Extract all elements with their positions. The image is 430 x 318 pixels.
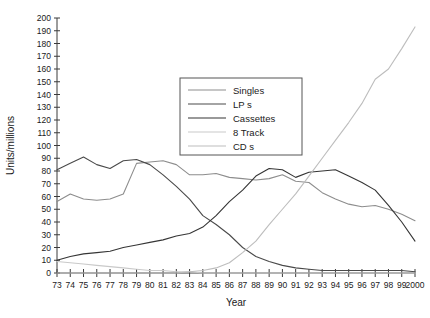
y-tick-label: 70 bbox=[42, 179, 52, 189]
legend-label-8-track: 8 Track bbox=[233, 127, 264, 138]
y-tick-label: 50 bbox=[42, 204, 52, 214]
x-tick-label: 73 bbox=[52, 280, 62, 290]
y-tick-label: 150 bbox=[37, 77, 51, 87]
y-tick-label: 180 bbox=[37, 39, 51, 49]
series-line-singles bbox=[57, 161, 415, 221]
legend-label-cassettes: Cassettes bbox=[233, 113, 275, 124]
y-tick-label: 30 bbox=[42, 230, 52, 240]
x-tick-label: 74 bbox=[66, 280, 76, 290]
x-tick-label: 80 bbox=[145, 280, 155, 290]
y-axis-title: Units/millions bbox=[5, 116, 16, 175]
x-tick-label: 92 bbox=[304, 280, 314, 290]
x-tick-label: 93 bbox=[317, 280, 327, 290]
x-tick-label: 82 bbox=[172, 280, 182, 290]
chart-canvas: 0102030405060708090100110120130140150160… bbox=[0, 0, 430, 318]
y-tick-label: 120 bbox=[37, 115, 51, 125]
x-tick-label: 87 bbox=[238, 280, 248, 290]
x-tick-label: 90 bbox=[278, 280, 288, 290]
y-tick-label: 90 bbox=[42, 153, 52, 163]
series-line-8-track bbox=[57, 262, 415, 273]
x-tick-label: 98 bbox=[384, 280, 394, 290]
x-tick-label: 79 bbox=[132, 280, 142, 290]
y-tick-label: 190 bbox=[37, 26, 51, 36]
y-tick-label: 0 bbox=[46, 268, 51, 278]
legend-label-singles: Singles bbox=[233, 85, 264, 96]
x-tick-label: 83 bbox=[185, 280, 195, 290]
y-tick-label: 140 bbox=[37, 90, 51, 100]
x-tick-label: 86 bbox=[225, 280, 235, 290]
x-tick-label: 2000 bbox=[406, 280, 425, 290]
x-axis-title: Year bbox=[226, 297, 247, 308]
x-tick-label: 85 bbox=[211, 280, 221, 290]
x-tick-label: 76 bbox=[92, 280, 102, 290]
series-line-cassettes bbox=[57, 168, 415, 260]
x-tick-label: 97 bbox=[370, 280, 380, 290]
x-tick-label: 88 bbox=[251, 280, 261, 290]
x-tick-label: 81 bbox=[158, 280, 168, 290]
y-tick-label: 110 bbox=[37, 128, 51, 138]
y-tick-label: 130 bbox=[37, 102, 51, 112]
y-tick-label: 200 bbox=[37, 13, 51, 23]
x-tick-label: 91 bbox=[291, 280, 301, 290]
y-tick-label: 10 bbox=[42, 255, 52, 265]
chart-legend: SinglesLP sCassettes8 TrackCD s bbox=[180, 78, 302, 155]
x-tick-label: 89 bbox=[264, 280, 274, 290]
y-tick-label: 170 bbox=[37, 51, 51, 61]
x-tick-label: 84 bbox=[198, 280, 208, 290]
x-axis-ticks: 7374757677787980818283848586878889909192… bbox=[52, 269, 424, 290]
x-tick-label: 78 bbox=[119, 280, 129, 290]
legend-label-lp-s: LP s bbox=[233, 99, 252, 110]
x-tick-label: 95 bbox=[344, 280, 354, 290]
x-tick-label: 94 bbox=[331, 280, 341, 290]
x-tick-label: 75 bbox=[79, 280, 89, 290]
y-tick-label: 160 bbox=[37, 64, 51, 74]
x-tick-label: 96 bbox=[357, 280, 367, 290]
y-tick-label: 20 bbox=[42, 243, 52, 253]
y-tick-label: 60 bbox=[42, 192, 52, 202]
x-tick-label: 77 bbox=[105, 280, 115, 290]
y-tick-label: 100 bbox=[37, 141, 51, 151]
line-chart-figure: 0102030405060708090100110120130140150160… bbox=[0, 0, 430, 318]
y-tick-label: 40 bbox=[42, 217, 52, 227]
series-line-lp-s bbox=[57, 157, 415, 272]
legend-label-cd-s: CD s bbox=[233, 141, 254, 152]
y-tick-label: 80 bbox=[42, 166, 52, 176]
